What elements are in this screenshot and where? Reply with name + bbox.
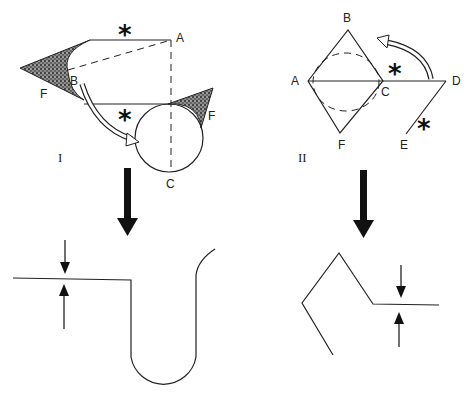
dashed-circle	[313, 53, 379, 111]
label-F-II: F	[338, 139, 345, 151]
profile-I-outline	[13, 249, 215, 384]
diagram-canvas	[0, 0, 474, 401]
label-F-left-I: F	[40, 88, 47, 100]
panel-numeral-II: II	[298, 151, 307, 164]
big-down-arrow-I	[117, 168, 138, 236]
label-D-II: D	[452, 75, 461, 87]
label-F-right-I: F	[208, 110, 215, 122]
panel-numeral-I: I	[58, 151, 62, 164]
label-A-I: A	[176, 32, 184, 44]
asterisk-DE-II: *	[417, 116, 431, 142]
label-B-I: B	[70, 75, 78, 87]
panel-I-fold-diagram	[20, 40, 213, 236]
profile-I	[13, 240, 215, 384]
label-B-II: B	[343, 12, 351, 24]
circle-cross-section	[135, 104, 203, 172]
shaded-cone-left	[20, 40, 90, 100]
hollow-curved-arrow-II	[377, 35, 431, 79]
profile-II	[302, 253, 439, 355]
label-C-I: C	[166, 178, 175, 190]
label-A-II: A	[291, 75, 299, 87]
big-down-arrow-II	[353, 170, 374, 238]
label-E-II: E	[400, 139, 408, 151]
asterisk-mid-I: *	[118, 107, 132, 133]
profile-II-outline	[302, 253, 439, 355]
asterisk-CD-II: *	[388, 61, 402, 87]
shaded-cone-right	[168, 88, 213, 128]
asterisk-top-I: *	[118, 22, 132, 48]
